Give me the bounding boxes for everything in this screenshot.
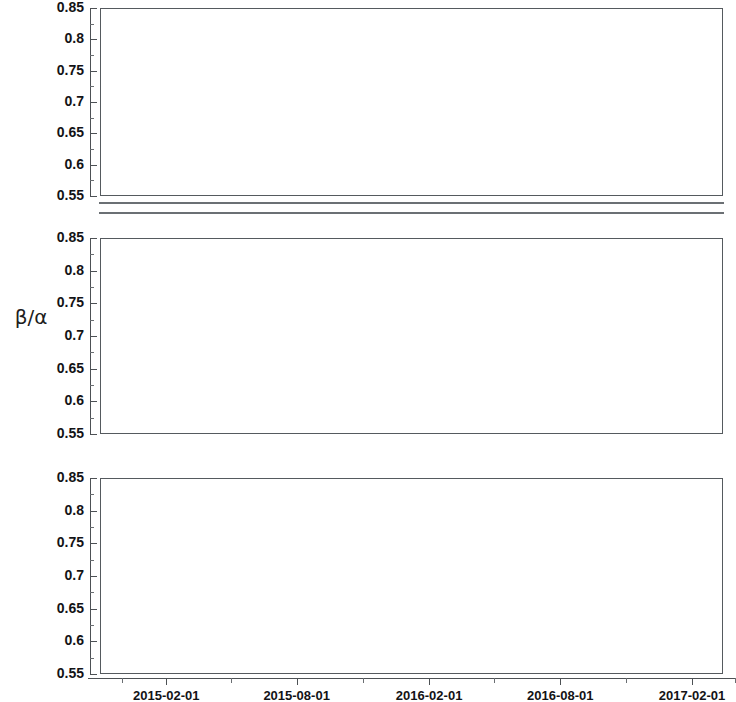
y-tick-label: 0.65: [30, 124, 84, 140]
x-tick-label: 2015-02-01: [133, 688, 200, 702]
y-tick-label: 0.85: [30, 0, 84, 15]
panel-raw: RAW: [100, 8, 723, 196]
y-tick-minor: [90, 86, 94, 87]
y-tick-label: 0.85: [30, 229, 84, 245]
y-tick-major: [90, 133, 97, 134]
panel-feed: no dosingvery low dosingFEED: [100, 238, 723, 434]
y-tick-label: 0.75: [30, 294, 84, 310]
y-tick-major: [90, 39, 97, 40]
x-tick-major: [429, 678, 430, 685]
y-tick-label: 0.7: [30, 327, 84, 343]
y-tick-major: [90, 8, 97, 9]
x-tick-major: [166, 678, 167, 685]
y-tick-minor: [90, 287, 94, 288]
y-tick-minor: [90, 658, 94, 659]
y-tick-major: [90, 434, 97, 435]
y-tick-minor: [90, 527, 94, 528]
y-tick-minor: [90, 560, 94, 561]
y-tick-minor: [90, 149, 94, 150]
y-tick-label: 0.7: [30, 567, 84, 583]
x-tick-label: 2017-02-01: [659, 688, 726, 702]
y-tick-minor: [90, 24, 94, 25]
x-axis-line: [88, 678, 736, 679]
y-tick-minor: [90, 55, 94, 56]
x-tick-minor: [626, 678, 627, 683]
y-tick-label: 0.6: [30, 392, 84, 408]
y-tick-label: 0.6: [30, 632, 84, 648]
y-tick-major: [90, 609, 97, 610]
y-tick-major: [90, 401, 97, 402]
y-tick-minor: [90, 494, 94, 495]
y-tick-label: 0.8: [30, 30, 84, 46]
y-tick-major: [90, 271, 97, 272]
chart-figure: β/α RAW0.850.80.750.70.650.60.55no dosin…: [0, 0, 736, 702]
y-tick-major: [90, 511, 97, 512]
y-tick-label: 0.6: [30, 156, 84, 172]
x-tick-minor: [122, 678, 123, 683]
y-tick-label: 0.7: [30, 93, 84, 109]
x-tick-minor: [494, 678, 495, 683]
y-tick-label: 0.65: [30, 600, 84, 616]
y-tick-label: 0.75: [30, 534, 84, 550]
y-tick-minor: [90, 352, 94, 353]
y-tick-major: [90, 576, 97, 577]
y-tick-minor: [90, 418, 94, 419]
y-tick-label: 0.55: [30, 425, 84, 441]
y-tick-label: 0.85: [30, 469, 84, 485]
panel-perm: no dosingvery low dosingPERM: [100, 478, 723, 674]
x-tick-major: [297, 678, 298, 685]
y-tick-label: 0.75: [30, 62, 84, 78]
x-tick-label: 2016-02-01: [396, 688, 463, 702]
y-tick-major: [90, 238, 97, 239]
x-tick-minor: [231, 678, 232, 683]
panel-frame: [100, 8, 723, 196]
panel-underline: [99, 212, 724, 214]
y-tick-label: 0.8: [30, 262, 84, 278]
y-tick-major: [90, 71, 97, 72]
y-tick-minor: [90, 385, 94, 386]
y-tick-label: 0.8: [30, 502, 84, 518]
x-tick-major: [560, 678, 561, 685]
x-tick-label: 2015-08-01: [263, 688, 330, 702]
panel-frame: [100, 478, 723, 674]
y-tick-minor: [90, 625, 94, 626]
y-tick-label: 0.55: [30, 187, 84, 203]
y-tick-major: [90, 674, 97, 675]
x-tick-label: 2016-08-01: [527, 688, 594, 702]
y-tick-major: [90, 543, 97, 544]
y-tick-major: [90, 336, 97, 337]
y-tick-minor: [90, 320, 94, 321]
x-tick-minor: [363, 678, 364, 683]
y-tick-major: [90, 102, 97, 103]
y-tick-major: [90, 478, 97, 479]
y-tick-major: [90, 641, 97, 642]
y-tick-minor: [90, 118, 94, 119]
y-tick-label: 0.55: [30, 665, 84, 681]
y-tick-major: [90, 196, 97, 197]
y-tick-minor: [90, 254, 94, 255]
y-tick-minor: [90, 592, 94, 593]
x-tick-major: [692, 678, 693, 685]
y-tick-major: [90, 369, 97, 370]
panel-underline: [99, 202, 724, 204]
y-tick-minor: [90, 180, 94, 181]
y-tick-major: [90, 165, 97, 166]
panel-frame: [100, 238, 723, 434]
y-tick-major: [90, 303, 97, 304]
y-tick-label: 0.65: [30, 360, 84, 376]
